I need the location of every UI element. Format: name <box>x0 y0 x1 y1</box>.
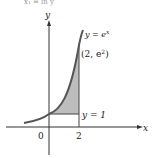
origin-label: 0 <box>38 131 44 141</box>
y-equals-1-label: y = 1 <box>81 110 106 120</box>
y-axis-label: y <box>44 10 51 20</box>
y-axis-arrow-icon <box>47 20 51 26</box>
curve-label: y = ex <box>84 28 110 39</box>
x-axis-label: x <box>143 123 148 133</box>
point-label: (2, e2) <box>81 48 109 59</box>
x-tick-label-2: 2 <box>76 131 82 141</box>
diagram-canvas: x₁ = ln y y x 0 2 y = ex (2, e2) y = 1 <box>0 0 158 158</box>
shaded-region <box>49 45 79 114</box>
header-fragment: x₁ = ln y <box>24 0 54 6</box>
